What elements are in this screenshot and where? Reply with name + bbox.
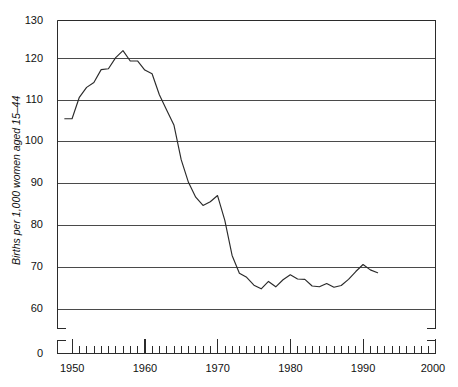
y-tick-label-0: 0 bbox=[37, 347, 43, 359]
x-tick-label-2000: 2000 bbox=[421, 362, 445, 374]
y-tick-label-80: 80 bbox=[31, 218, 43, 230]
x-tick-label-1950: 1950 bbox=[60, 362, 84, 374]
series-line-general-fertility-rate bbox=[65, 51, 378, 289]
x-tick-label-1980: 1980 bbox=[278, 362, 302, 374]
gridlines bbox=[57, 21, 436, 310]
x-tick-label-1970: 1970 bbox=[205, 362, 229, 374]
fertility-rate-chart: Births per 1,000 women aged 15–44 130 12… bbox=[0, 0, 458, 387]
x-tick-marks bbox=[72, 339, 436, 354]
y-axis-label: Births per 1,000 women aged 15–44 bbox=[10, 96, 22, 265]
y-axis-label-text: Births per 1,000 women aged 15–44 bbox=[10, 96, 22, 265]
chart-canvas: Births per 1,000 women aged 15–44 130 12… bbox=[0, 0, 458, 387]
y-tick-label-70: 70 bbox=[31, 260, 43, 272]
y-tick-label-90: 90 bbox=[31, 176, 43, 188]
y-tick-label-120: 120 bbox=[25, 52, 43, 64]
y-tick-label-60: 60 bbox=[31, 302, 43, 314]
x-tick-label-1990: 1990 bbox=[351, 362, 375, 374]
axis-break-stub-left-lower bbox=[58, 341, 67, 354]
y-tick-label-100: 100 bbox=[25, 134, 43, 146]
x-tick-minor-group bbox=[80, 346, 429, 354]
y-tick-labels: 130 120 110 100 90 80 70 60 0 bbox=[25, 14, 43, 359]
y-tick-label-110: 110 bbox=[25, 93, 43, 105]
x-tick-label-1960: 1960 bbox=[133, 362, 157, 374]
data-series-group bbox=[65, 51, 378, 289]
x-tick-labels: 1950 1960 1970 1980 1990 2000 bbox=[60, 362, 445, 374]
y-tick-label-130: 130 bbox=[25, 14, 43, 26]
plot-frame bbox=[58, 21, 436, 329]
